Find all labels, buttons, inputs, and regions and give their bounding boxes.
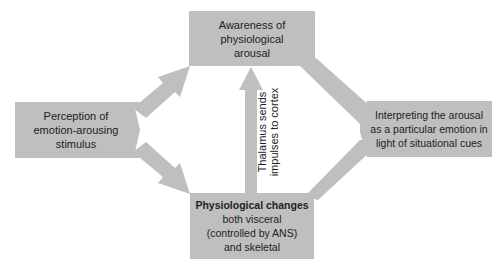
node-awareness-line-2: physiological [219, 32, 285, 46]
node-interpreting-line-1: Interpreting the arousal [370, 108, 487, 122]
edge-label-thalamus: Thalamus sends impulses to cortex [256, 82, 284, 182]
node-interpreting-line-2: as a particular emotion in [370, 122, 487, 136]
arrow-perception-physiological [133, 142, 190, 194]
node-interpreting: Interpreting the arousal as a particular… [366, 101, 492, 157]
edge-label-thalamus-line-2: impulses to cortex [268, 82, 280, 182]
arrow-perception-awareness [133, 66, 190, 118]
connector-physiological-interpreting [305, 140, 372, 200]
node-awareness-line-3: arousal [219, 46, 285, 60]
node-physiological-line-1: both visceral [195, 212, 308, 226]
edge-label-thalamus-line-1: Thalamus sends [256, 82, 268, 182]
node-physiological: Physiological changes both visceral (con… [190, 193, 314, 259]
node-physiological-line-3: and skeletal [195, 240, 308, 254]
node-physiological-title: Physiological changes [195, 198, 308, 212]
node-perception: Perception of emotion-arousing stimulus [15, 102, 137, 158]
node-perception-line-2: emotion-arousing [34, 123, 119, 137]
node-awareness: Awareness of physiological arousal [189, 11, 315, 66]
node-interpreting-line-3: light of situational cues [370, 136, 487, 150]
node-awareness-line-1: Awareness of [219, 18, 285, 32]
connector-awareness-interpreting [300, 58, 372, 124]
node-perception-line-1: Perception of [34, 109, 119, 123]
node-perception-line-3: stimulus [34, 137, 119, 151]
node-physiological-line-2: (controlled by ANS) [195, 226, 308, 240]
diagram: Awareness of physiological arousal Perce… [0, 0, 503, 270]
